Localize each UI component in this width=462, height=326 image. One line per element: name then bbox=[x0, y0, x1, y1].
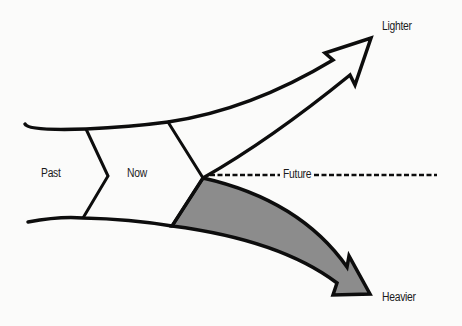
timeline-diagram: Past Now Future Lighter Heavier bbox=[0, 0, 462, 326]
bottom-boundary-line bbox=[28, 218, 172, 227]
lighter-label: Lighter bbox=[382, 19, 412, 33]
lighter-arrow bbox=[168, 38, 371, 178]
heavier-arrow bbox=[172, 178, 370, 295]
now-label: Now bbox=[127, 166, 147, 180]
diagram-canvas bbox=[0, 0, 462, 326]
top-boundary-line bbox=[25, 122, 168, 129]
future-label: Future bbox=[283, 167, 311, 181]
past-label: Past bbox=[41, 166, 61, 180]
past-now-divider bbox=[83, 129, 108, 218]
heavier-label: Heavier bbox=[382, 290, 416, 304]
